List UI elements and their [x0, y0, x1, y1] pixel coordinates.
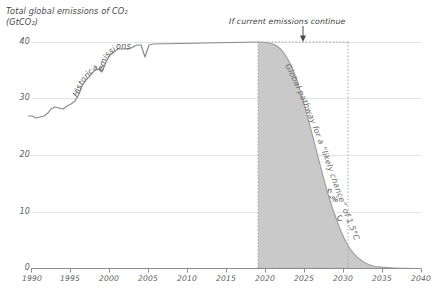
x-axis-ticks — [32, 269, 422, 273]
label-historical-emissions-textpath: Historical emissions — [71, 42, 131, 98]
annotation-arrow-down-icon — [300, 26, 306, 42]
historical-emissions-line — [28, 44, 153, 118]
chart-root: Total global emissions of CO₂ (GtCO₂) 40… — [0, 0, 442, 297]
label-historical-emissions: Historical emissions — [71, 42, 131, 98]
chart-plot-svg: Historical emissions Global pathway for … — [0, 0, 442, 297]
arrow-head — [300, 36, 306, 43]
